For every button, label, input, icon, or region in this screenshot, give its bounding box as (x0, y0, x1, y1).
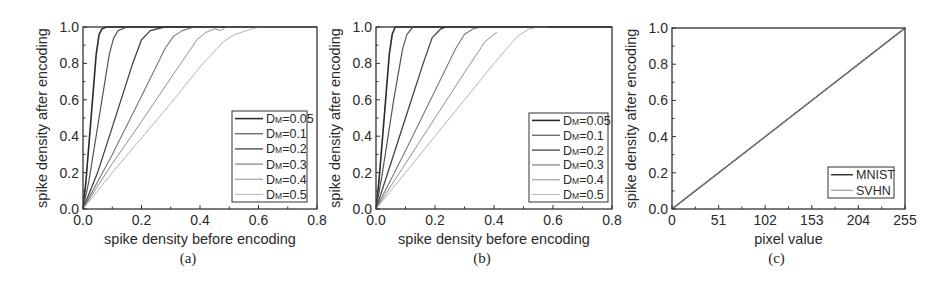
x-axis-title: pixel value (754, 231, 823, 247)
x-tick-label: 0.2 (132, 212, 152, 228)
legend-label-main: D (266, 158, 275, 172)
legend-label-value: =0.5 (579, 188, 604, 202)
series-line-4 (376, 33, 497, 210)
y-tick-label: 0.4 (649, 129, 669, 145)
y-tick-label: 0.2 (353, 165, 373, 181)
legend-label: DM=0.2 (563, 144, 604, 158)
legend-label-sub: M (275, 191, 282, 201)
x-tick-label: 255 (893, 212, 917, 228)
x-tick-label: 153 (800, 212, 824, 228)
legend-label-main: D (563, 173, 572, 187)
y-tick-label: 0.6 (353, 92, 373, 108)
legend-label: MNIST (856, 168, 895, 182)
x-tick-label: 51 (711, 212, 727, 228)
legend-label: DM=0.2 (266, 142, 307, 156)
x-tick-label: 0.6 (249, 212, 269, 228)
y-tick-label: 0.4 (60, 128, 80, 144)
panel-caption: (a) (180, 250, 197, 267)
legend-label-sub: M (572, 132, 579, 142)
legend-label-sub: M (572, 191, 579, 201)
x-tick-label: 0.2 (425, 212, 445, 228)
legend-label-main: D (266, 173, 275, 187)
x-tick-label: 204 (847, 212, 871, 228)
legend-label-value: =0.3 (282, 158, 307, 172)
legend: MNISTSVHN (828, 167, 895, 198)
legend-label: DM=0.5 (266, 188, 307, 202)
legend-label: DM=0.05 (563, 114, 611, 128)
legend-label-main: D (563, 144, 572, 158)
x-tick-label: 0.0 (366, 212, 386, 228)
y-tick-label: 0.8 (649, 56, 669, 72)
legend-label-value: =0.05 (282, 112, 314, 126)
x-tick-label: 0.0 (73, 212, 93, 228)
legend-label-value: =0.2 (282, 142, 307, 156)
legend-label-sub: M (275, 145, 282, 155)
legend-label-value: =0.1 (579, 129, 604, 143)
chart-panel-c: 0.00.20.40.60.81.0051102153204255pixel v… (623, 20, 917, 267)
legend-label: DM=0.3 (563, 158, 604, 172)
legend-label-value: =0.3 (579, 158, 604, 172)
chart-panel-b: 0.00.20.40.60.81.00.00.20.40.60.8spike d… (327, 19, 622, 267)
legend: DM=0.05DM=0.1DM=0.2DM=0.3DM=0.4DM=0.5 (232, 111, 314, 202)
legend-label-value: =0.4 (282, 173, 307, 187)
y-tick-label: 0.2 (60, 165, 80, 181)
y-axis-title: spike density after encoding (327, 28, 343, 208)
legend-label: DM=0.5 (563, 188, 604, 202)
x-tick-label: 0.6 (543, 212, 563, 228)
legend-label: DM=0.3 (266, 158, 307, 172)
legend-label-value: =0.5 (282, 188, 307, 202)
legend-label-sub: M (572, 117, 579, 127)
y-tick-label: 0.8 (60, 55, 80, 71)
legend-label-main: D (563, 129, 572, 143)
chart-panel-a: 0.00.20.40.60.81.00.00.20.40.60.8spike d… (34, 19, 327, 267)
y-tick-label: 0.6 (649, 92, 669, 108)
legend-label-main: D (266, 188, 275, 202)
legend-label-main: D (266, 142, 275, 156)
legend-label: DM=0.4 (266, 173, 307, 187)
legend-label-value: =0.1 (282, 127, 307, 141)
x-axis-title: spike density before encoding (104, 231, 296, 247)
legend: DM=0.05DM=0.1DM=0.2DM=0.3DM=0.4DM=0.5 (529, 113, 611, 202)
legend-label-main: D (563, 114, 572, 128)
legend-label-sub: M (572, 176, 579, 186)
y-tick-label: 1.0 (353, 19, 373, 35)
legend-label-value: =0.05 (579, 114, 611, 128)
y-tick-label: 0.6 (60, 92, 80, 108)
y-tick-label: 0.4 (353, 128, 373, 144)
legend-label-main: D (563, 158, 572, 172)
x-axis-title: spike density before encoding (398, 231, 590, 247)
y-tick-label: 1.0 (60, 19, 80, 35)
legend-label: DM=0.05 (266, 112, 314, 126)
legend-label: DM=0.1 (266, 127, 307, 141)
series-line-3 (376, 27, 482, 209)
figure: 0.00.20.40.60.81.00.00.20.40.60.8spike d… (0, 0, 951, 284)
legend-label: SVHN (856, 184, 891, 198)
legend-label-main: D (266, 112, 275, 126)
y-axis-title: spike density after encoding (623, 29, 639, 209)
x-tick-label: 0.4 (190, 212, 210, 228)
legend-label-value: =0.4 (579, 173, 604, 187)
x-tick-label: 0.8 (602, 212, 622, 228)
y-tick-label: 0.8 (353, 55, 373, 71)
legend-label-sub: M (275, 161, 282, 171)
panel-caption: (c) (768, 250, 785, 267)
x-tick-label: 0.8 (307, 212, 327, 228)
x-tick-label: 102 (754, 212, 778, 228)
legend-label-sub: M (275, 176, 282, 186)
x-tick-label: 0 (668, 212, 676, 228)
legend-label-sub: M (275, 115, 282, 125)
legend-label-main: MNIST (856, 168, 895, 182)
legend-label-sub: M (572, 161, 579, 171)
legend-label: DM=0.4 (563, 173, 604, 187)
legend-label-sub: M (275, 130, 282, 140)
legend-label-value: =0.2 (579, 144, 604, 158)
y-tick-label: 1.0 (649, 20, 669, 36)
panel-caption: (b) (473, 250, 491, 267)
y-tick-label: 0.0 (649, 201, 669, 217)
x-tick-label: 0.4 (484, 212, 504, 228)
legend-label-sub: M (572, 147, 579, 157)
legend-label: DM=0.1 (563, 129, 604, 143)
legend-label-main: SVHN (856, 184, 891, 198)
legend-label-main: D (266, 127, 275, 141)
legend-label-main: D (563, 188, 572, 202)
